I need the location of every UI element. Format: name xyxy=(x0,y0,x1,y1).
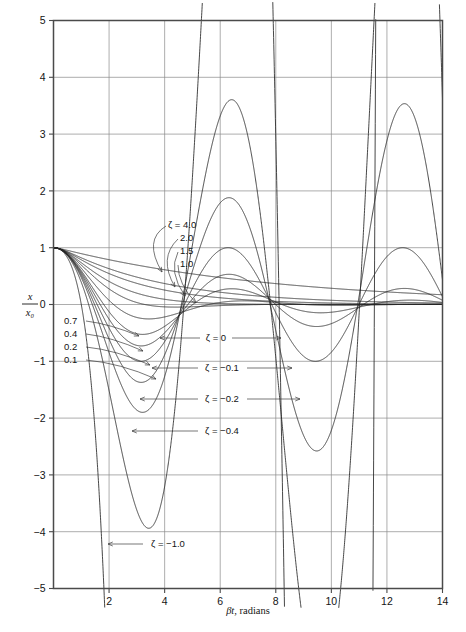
response-curve-chart: 2468101214 −5−4−3−2−1012345 βt, radians … xyxy=(0,0,466,632)
annotation-zeta-0p4: 0.4 xyxy=(64,328,77,339)
x-tick-label: 10 xyxy=(326,595,338,607)
y-tick-label: 5 xyxy=(40,14,46,26)
figure-container: 2468101214 −5−4−3−2−1012345 βt, radians … xyxy=(0,0,466,632)
svg-text:βt, radians: βt, radians xyxy=(225,605,270,616)
x-tick-label: 14 xyxy=(437,595,449,607)
annotation-zeta-0p2: 0.2 xyxy=(64,341,77,352)
y-tick-label: 4 xyxy=(40,71,46,83)
annotation-zeta-2: 2.0 xyxy=(180,232,193,243)
x-tick-label: 8 xyxy=(273,595,279,607)
y-tick-label: −2 xyxy=(34,412,46,424)
y-tick-label: −1 xyxy=(34,355,46,367)
y-axis-denominator: x₀ xyxy=(25,307,35,318)
x-tick-label: 4 xyxy=(162,595,168,607)
annotation-zeta-0p1: 0.1 xyxy=(64,354,77,365)
y-tick-label: 1 xyxy=(40,242,46,254)
annotation-zeta-m0p2: ζ = −0.2 xyxy=(205,393,239,404)
y-tick-label: −5 xyxy=(34,582,46,594)
y-tick-label: 0 xyxy=(40,298,46,310)
annotation-zeta-m1: ζ = −1.0 xyxy=(151,538,185,549)
y-tick-label: 3 xyxy=(40,128,46,140)
y-tick-label: −3 xyxy=(34,469,46,481)
x-axis-title: βt, radians xyxy=(225,605,270,616)
x-tick-label: 2 xyxy=(106,595,112,607)
annotation-zeta-m0p1: ζ = −0.1 xyxy=(205,362,239,373)
annotation-zeta-0: ζ = 0 xyxy=(206,332,226,343)
annotation-zeta-4: ζ = 4.0 xyxy=(168,219,196,230)
x-tick-label: 12 xyxy=(381,595,393,607)
y-tick-label: 2 xyxy=(40,185,46,197)
x-tick-label: 6 xyxy=(217,595,223,607)
annotation-zeta-0p7: 0.7 xyxy=(64,315,77,326)
y-tick-label: −4 xyxy=(34,526,46,538)
annotation-zeta-1p5: 1.5 xyxy=(180,245,193,256)
annotation-zeta-1: 1.0 xyxy=(180,258,193,269)
y-axis-numerator: x xyxy=(27,291,33,302)
annotation-zeta-m0p4: ζ = −0.4 xyxy=(205,425,239,436)
